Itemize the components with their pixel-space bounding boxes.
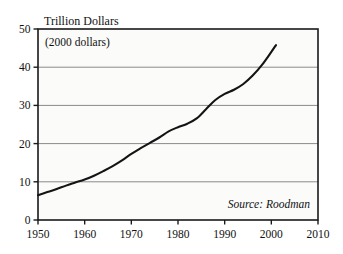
chart-figure: 01020304050 1950196019701980199020002010… <box>0 0 343 254</box>
y-tick-label-20: 20 <box>19 138 31 150</box>
y-tick-label-50: 50 <box>19 23 31 35</box>
x-tick-label-1960: 1960 <box>73 228 96 240</box>
x-tick-label-1990: 1990 <box>213 228 236 240</box>
y-axis-tick-labels: 01020304050 <box>19 23 31 226</box>
y-tick-label-10: 10 <box>19 176 31 188</box>
y-tick-label-0: 0 <box>25 214 31 226</box>
plot-background <box>38 29 318 220</box>
x-tick-label-1970: 1970 <box>120 228 143 240</box>
x-tick-label-1950: 1950 <box>27 228 50 240</box>
chart-subtitle: (2000 dollars) <box>45 36 110 49</box>
y-tick-label-30: 30 <box>19 99 31 111</box>
y-tick-label-40: 40 <box>19 61 31 73</box>
x-tick-label-1980: 1980 <box>167 228 190 240</box>
x-tick-label-2010: 2010 <box>307 228 330 240</box>
gross-world-product-line-chart: 01020304050 1950196019701980199020002010… <box>0 0 343 254</box>
x-tick-label-2000: 2000 <box>260 228 283 240</box>
x-axis-tick-labels: 1950196019701980199020002010 <box>27 228 330 240</box>
chart-title: Trillion Dollars <box>44 14 119 28</box>
source-note: Source: Roodman <box>228 198 311 210</box>
